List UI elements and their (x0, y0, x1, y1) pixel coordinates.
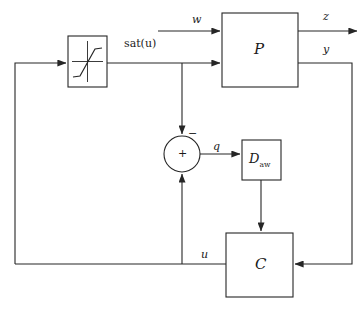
signal-label-u: u (201, 249, 208, 260)
antiwindup-block-label: Daw (249, 152, 271, 168)
signal-label-w: w (192, 14, 201, 25)
block-diagram-canvas: w z y sat(u) q u − + P C Daw (0, 0, 363, 310)
signal-label-z: z (323, 11, 329, 22)
antiwindup-label-subscript: aw (259, 160, 270, 169)
edge-plant-y-to-controller (295, 63, 352, 264)
edge-u-to-saturation (15, 63, 66, 264)
plant-block-label: P (254, 42, 264, 57)
signal-label-q: q (213, 141, 220, 152)
signal-label-sat-u: sat(u) (124, 38, 156, 49)
signal-label-y: y (323, 44, 329, 55)
antiwindup-label-main: D (249, 151, 259, 166)
controller-block-label: C (255, 257, 266, 272)
summer-plus-sign: + (178, 148, 187, 159)
summer-minus-sign: − (188, 128, 197, 139)
